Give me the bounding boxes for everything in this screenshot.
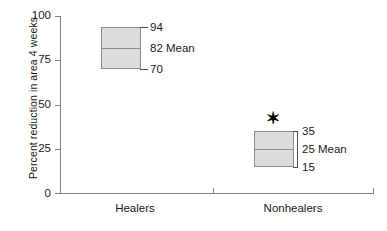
y-axis-tick-50 [55,105,61,106]
y-tick-label-25: 25 [38,143,51,154]
mean-value-label-nonhealers: 25 Mean [302,144,347,155]
x-axis-tick-middle [213,188,214,194]
x-axis-line [60,193,374,194]
y-tick-label-50: 50 [38,99,51,110]
y-tick-label-0: 0 [45,188,51,199]
upper-value-label-healers: 94 [150,22,163,33]
y-tick-label-75: 75 [38,54,51,65]
lower-cap-nonhealers [293,167,298,168]
upper-cap-healers [140,27,148,28]
upper-cap-nonhealers [293,131,298,132]
upper-value-label-nonhealers: 35 [302,126,315,137]
x-axis-tick-right [373,188,374,194]
y-axis-tick-75 [55,60,61,61]
mean-line-nonhealers [254,149,294,150]
lower-value-label-healers: 70 [150,64,163,75]
significance-star-icon: ✶ [265,110,281,127]
y-tick-label-100: 100 [32,10,51,21]
lower-value-label-nonhealers: 15 [302,162,315,173]
category-label-nonhealers: Nonhealers [253,202,333,214]
y-axis-tick-25 [55,149,61,150]
category-label-healers: Healers [95,202,175,214]
mean-line-healers [101,48,141,49]
bracket-line-nonhealers [297,131,298,167]
y-axis-tick-100 [55,16,61,17]
box-plot-chart: Percent reduction in area 4 weeks 100 75… [0,0,387,231]
mean-value-label-healers: 82 Mean [150,43,195,54]
y-axis-tick-labels: 100 75 50 25 0 [0,0,51,231]
lower-cap-healers [140,69,148,70]
